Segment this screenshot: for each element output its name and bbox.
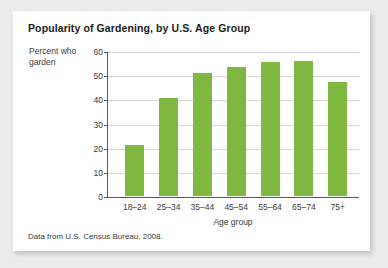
bar [294, 61, 313, 196]
x-tick-label: 45–54 [224, 202, 248, 212]
figure-card: Popularity of Gardening, by U.S. Age Gro… [13, 11, 370, 251]
bar [328, 82, 347, 196]
gridline [107, 52, 359, 53]
x-tick-label: 18–24 [123, 202, 147, 212]
x-tick-label: 55–64 [258, 202, 282, 212]
y-tick-label: 0 [98, 192, 103, 202]
y-tick-label: 50 [94, 71, 103, 81]
bar [227, 67, 246, 196]
x-axis-title: Age group [107, 217, 359, 227]
bar [159, 98, 178, 196]
bar [193, 73, 212, 196]
chart-title: Popularity of Gardening, by U.S. Age Gro… [28, 22, 250, 34]
y-tick-label: 40 [94, 95, 103, 105]
y-tick-label: 60 [94, 47, 103, 57]
y-tick-label: 30 [94, 120, 103, 130]
y-axis-line [107, 52, 108, 198]
source-note: Data from U.S. Census Bureau, 2008. [28, 232, 163, 241]
plot-area: 0102030405060 18–2425–3435–4445–5455–646… [107, 52, 359, 197]
x-tick-label: 25–34 [157, 202, 181, 212]
x-tick-label: 75+ [330, 202, 344, 212]
bar [261, 62, 280, 196]
y-tick-label: 20 [94, 144, 103, 154]
bar [125, 145, 144, 196]
x-tick-label: 65–74 [292, 202, 316, 212]
x-tick-label: 35–44 [191, 202, 215, 212]
y-tick-label: 10 [94, 168, 103, 178]
y-axis-title: Percent who garden [29, 46, 97, 68]
x-axis-line [107, 197, 359, 198]
